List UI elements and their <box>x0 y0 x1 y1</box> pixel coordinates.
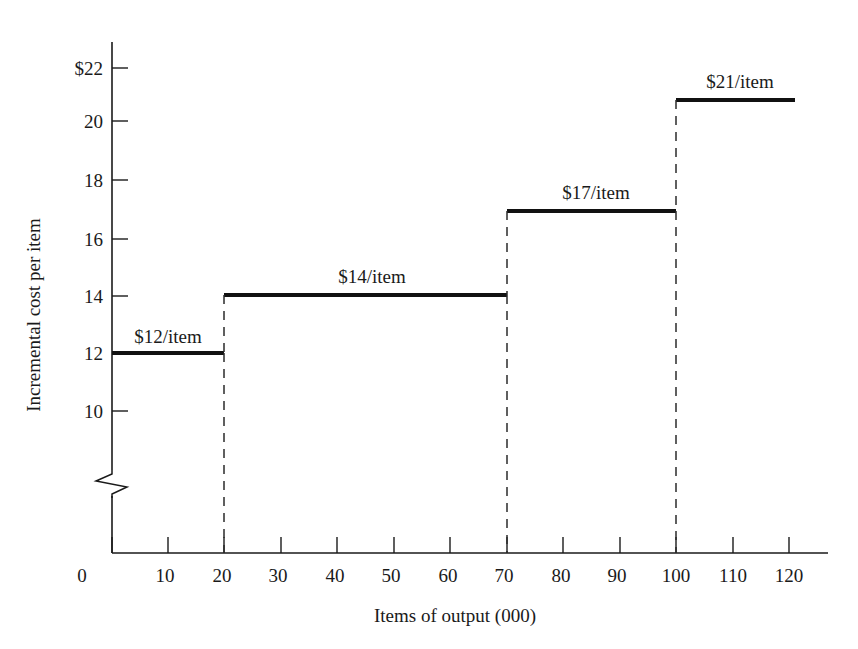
y-tick-label-16: 16 <box>84 229 103 250</box>
y-tick-label-22: $22 <box>75 58 104 79</box>
chart-canvas: $22 20 18 16 14 12 10 Incremental cost p… <box>0 0 858 649</box>
x-tick-label-90: 90 <box>608 565 627 586</box>
step-series: $12/item $14/item $17/item $21/item <box>112 71 795 553</box>
x-tick-label-20: 20 <box>213 565 232 586</box>
x-axis-ticks <box>112 537 789 553</box>
x-tick-label-40: 40 <box>326 565 345 586</box>
y-tick-label-14: 14 <box>84 286 104 307</box>
step-annotation-2: $14/item <box>338 266 406 287</box>
step-annotation-3: $17/item <box>562 182 630 203</box>
x-tick-label-30: 30 <box>269 565 288 586</box>
x-tick-label-50: 50 <box>382 565 401 586</box>
x-axis-group: 0 10 20 30 40 50 60 70 80 90 100 110 120… <box>77 537 828 627</box>
step-segment-2[interactable]: $14/item <box>224 266 507 553</box>
x-tick-label-0: 0 <box>77 565 87 586</box>
x-tick-label-80: 80 <box>552 565 571 586</box>
y-axis-break-zigzag <box>96 470 127 498</box>
step-annotation-1: $12/item <box>134 326 202 347</box>
y-axis-title: Incremental cost per item <box>23 218 44 412</box>
x-tick-label-100: 100 <box>662 565 691 586</box>
x-tick-label-70: 70 <box>495 565 514 586</box>
x-axis-title: Items of output (000) <box>374 605 536 627</box>
x-tick-label-60: 60 <box>439 565 458 586</box>
x-tick-label-120: 120 <box>775 565 804 586</box>
y-tick-label-20: 20 <box>84 111 103 132</box>
x-tick-label-10: 10 <box>156 565 175 586</box>
step-segment-1[interactable]: $12/item <box>112 326 224 553</box>
x-tick-label-110: 110 <box>719 565 747 586</box>
y-tick-label-10: 10 <box>84 401 103 422</box>
y-axis-group: $22 20 18 16 14 12 10 Incremental cost p… <box>23 42 128 553</box>
step-segment-3[interactable]: $17/item <box>507 182 676 553</box>
step-segment-4[interactable]: $21/item <box>676 71 795 211</box>
incremental-cost-step-chart: $22 20 18 16 14 12 10 Incremental cost p… <box>0 0 858 649</box>
y-axis-ticks <box>112 68 128 411</box>
step-annotation-4: $21/item <box>706 71 774 92</box>
y-tick-label-12: 12 <box>84 343 103 364</box>
y-tick-label-18: 18 <box>84 170 103 191</box>
